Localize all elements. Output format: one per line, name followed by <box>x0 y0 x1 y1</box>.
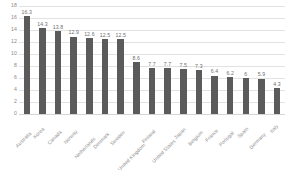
x-axis-labels: AustraliaKoreaCanadaNorwayNetherlandsDen… <box>19 115 285 170</box>
bar-slot: 14.3 <box>35 6 51 114</box>
bar-value-label: 6 <box>244 72 247 77</box>
bar[interactable]: 14.3 <box>39 28 46 114</box>
bar-value-label: 16.3 <box>22 10 33 15</box>
x-label-slot: Australia <box>19 115 35 170</box>
bar-slot: 8.6 <box>128 6 144 114</box>
y-axis-tick-label: 2 <box>14 99 17 104</box>
x-label-slot: United Kingdom <box>128 115 144 170</box>
bar-value-label: 6.4 <box>211 69 219 74</box>
x-axis-category-text: Japan <box>173 127 186 140</box>
bar[interactable]: 8.6 <box>133 62 140 114</box>
x-label-slot: Belgium <box>191 115 207 170</box>
y-axis: 024681012141618 <box>0 6 19 114</box>
bar[interactable]: 4.3 <box>274 88 281 114</box>
x-axis-category-text: Italy <box>269 124 279 134</box>
bar-slot: 12.6 <box>82 6 98 114</box>
bar[interactable]: 6 <box>243 78 250 114</box>
bar-value-label: 12.5 <box>115 33 126 38</box>
bar[interactable]: 7.3 <box>196 70 203 114</box>
bar[interactable]: 12.9 <box>70 37 77 114</box>
y-axis-tick-label: 8 <box>14 63 17 68</box>
bar-slot: 4.3 <box>269 6 285 114</box>
bar[interactable]: 7.5 <box>180 69 187 114</box>
bar-value-label: 7.7 <box>164 62 172 67</box>
bar-slot: 7.3 <box>191 6 207 114</box>
bar-slot: 6 <box>238 6 254 114</box>
bar-value-label: 8.6 <box>133 56 141 61</box>
bar-slot: 6.2 <box>222 6 238 114</box>
x-label-slot: Portugal <box>222 115 238 170</box>
bar[interactable]: 5.9 <box>258 79 265 114</box>
y-axis-tick-label: 0 <box>14 111 17 116</box>
bar-slot: 7.7 <box>144 6 160 114</box>
bar-slot: 12.5 <box>97 6 113 114</box>
bar-slot: 6.4 <box>207 6 223 114</box>
y-axis-tick-label: 14 <box>11 27 17 32</box>
bar[interactable]: 12.5 <box>102 39 109 114</box>
y-axis-tick-label: 4 <box>14 87 17 92</box>
bar-value-label: 12.9 <box>68 30 79 35</box>
bar[interactable]: 16.3 <box>24 16 31 114</box>
bar-value-label: 14.3 <box>37 22 48 27</box>
bar-value-label: 7.3 <box>195 64 203 69</box>
bar-slot: 7.7 <box>160 6 176 114</box>
plot-area: 024681012141618 16.314.313.812.912.612.5… <box>0 0 288 170</box>
bar-slot: 7.5 <box>175 6 191 114</box>
bar[interactable]: 12.5 <box>117 39 124 114</box>
bar-value-label: 7.5 <box>179 63 187 68</box>
x-label-slot: United States <box>160 115 176 170</box>
bar[interactable]: 7.7 <box>164 68 171 114</box>
y-axis-tick-label: 18 <box>11 3 17 8</box>
x-axis-category-text: Norway <box>63 129 79 145</box>
bar-slot: 12.9 <box>66 6 82 114</box>
x-axis-category-text: Spain <box>236 126 249 139</box>
bar-value-label: 12.6 <box>84 32 95 37</box>
bar-chart: 024681012141618 16.314.313.812.912.612.5… <box>0 0 288 170</box>
x-label-slot: Norway <box>66 115 82 170</box>
y-axis-tick-label: 6 <box>14 75 17 80</box>
bar-slot: 16.3 <box>19 6 35 114</box>
x-label-slot: Italy <box>269 115 285 170</box>
x-axis-category-text: Australia <box>15 131 33 149</box>
bar-value-label: 13.8 <box>53 25 64 30</box>
x-axis-category-text: Finland <box>141 129 156 144</box>
bar[interactable]: 13.8 <box>55 31 62 114</box>
bar-value-label: 6.2 <box>226 71 234 76</box>
bar-value-label: 4.3 <box>273 82 281 87</box>
y-axis-tick-label: 12 <box>11 39 17 44</box>
bar-slot: 13.8 <box>50 6 66 114</box>
y-axis-tick-label: 10 <box>11 51 17 56</box>
bar-slot: 12.5 <box>113 6 129 114</box>
bar[interactable]: 7.7 <box>149 68 156 114</box>
y-axis-tick-label: 16 <box>11 15 17 20</box>
x-axis-category-text: France <box>204 128 219 143</box>
bar[interactable]: 6.4 <box>211 76 218 114</box>
bar-value-label: 5.9 <box>258 72 266 77</box>
bar-value-label: 12.5 <box>100 33 111 38</box>
bar-slot: 5.9 <box>254 6 270 114</box>
x-axis-category-text: Korea <box>33 127 46 140</box>
bar[interactable]: 12.6 <box>86 38 93 114</box>
x-label-slot: Germany <box>254 115 270 170</box>
bar[interactable]: 6.2 <box>227 77 234 114</box>
bar-value-label: 7.7 <box>148 62 156 67</box>
bar-series: 16.314.313.812.912.612.512.58.67.77.77.5… <box>19 6 285 114</box>
x-axis-category-label: Italy <box>276 117 286 127</box>
